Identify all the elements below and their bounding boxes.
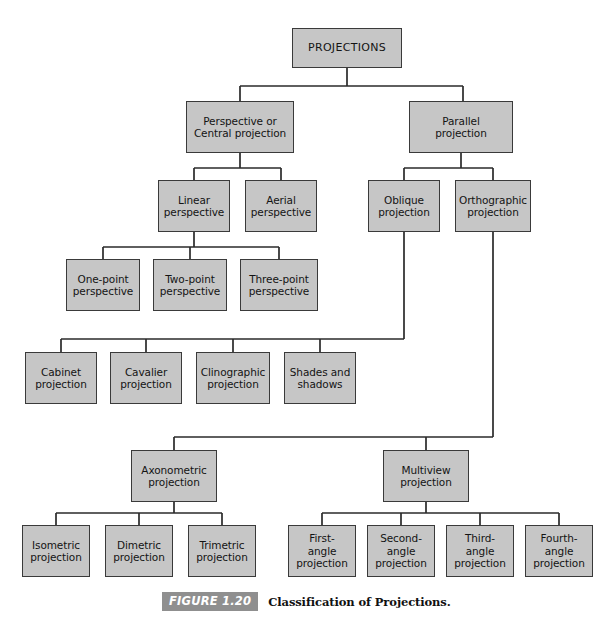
node-first-angle-projection[interactable]: First- angle projection xyxy=(288,525,356,577)
node-trimetric-projection[interactable]: Trimetric projection xyxy=(188,525,256,577)
link-linear-children xyxy=(103,232,279,259)
node-second-angle-projection[interactable]: Second- angle projection xyxy=(367,525,435,577)
node-clinographic-projection[interactable]: Clinographic projection xyxy=(196,352,270,404)
node-cavalier-projection[interactable]: Cavalier projection xyxy=(110,352,182,404)
figure-caption: FIGURE 1.20 Classification of Projection… xyxy=(162,592,451,611)
node-projections[interactable]: PROJECTIONS xyxy=(292,28,402,68)
link-parallel-children xyxy=(404,153,493,180)
node-multiview-projection[interactable]: Multiview projection xyxy=(383,450,469,502)
projections-classification-diagram: PROJECTIONS Perspective or Central proje… xyxy=(0,0,599,627)
node-isometric-projection[interactable]: Isometric projection xyxy=(22,525,90,577)
node-shades-and-shadows[interactable]: Shades and shadows xyxy=(284,352,356,404)
figure-number-badge: FIGURE 1.20 xyxy=(162,592,258,611)
link-projections-children xyxy=(240,68,463,101)
node-fourth-angle-projection[interactable]: Fourth- angle projection xyxy=(525,525,593,577)
node-orthographic-projection[interactable]: Orthographic projection xyxy=(455,180,531,232)
node-oblique-projection[interactable]: Oblique projection xyxy=(368,180,440,232)
link-axonometric-children xyxy=(56,502,222,525)
node-third-angle-projection[interactable]: Third- angle projection xyxy=(446,525,514,577)
node-one-point-perspective[interactable]: One-point perspective xyxy=(66,259,140,311)
node-two-point-perspective[interactable]: Two-point perspective xyxy=(153,259,227,311)
node-aerial-perspective[interactable]: Aerial perspective xyxy=(245,180,317,232)
link-multiview-children xyxy=(322,502,559,525)
node-cabinet-projection[interactable]: Cabinet projection xyxy=(25,352,97,404)
figure-caption-text: Classification of Projections. xyxy=(268,595,450,609)
link-perspective-children xyxy=(194,153,281,180)
node-three-point-perspective[interactable]: Three-point perspective xyxy=(240,259,318,311)
node-parallel-projection[interactable]: Parallel projection xyxy=(409,101,513,153)
node-axonometric-projection[interactable]: Axonometric projection xyxy=(131,450,217,502)
node-linear-perspective[interactable]: Linear perspective xyxy=(158,180,230,232)
node-perspective-central[interactable]: Perspective or Central projection xyxy=(186,101,294,153)
node-dimetric-projection[interactable]: Dimetric projection xyxy=(105,525,173,577)
